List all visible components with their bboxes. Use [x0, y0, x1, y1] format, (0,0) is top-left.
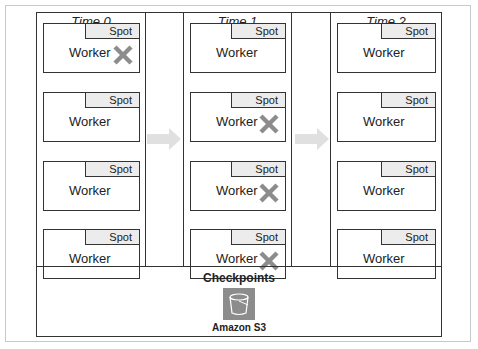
worker-label: Worker — [363, 251, 405, 266]
worker-label: Worker — [69, 183, 111, 198]
worker-card: SpotWorker — [190, 23, 286, 73]
spot-tag: Spot — [381, 92, 436, 108]
spot-tag: Spot — [231, 161, 286, 177]
worker-label: Worker — [216, 183, 258, 198]
arrow-right-icon — [147, 128, 181, 150]
worker-card: SpotWorker — [190, 92, 286, 142]
spot-tag: Spot — [381, 229, 436, 245]
spot-tag: Spot — [85, 229, 140, 245]
worker-label: Worker — [216, 114, 258, 129]
worker-label: Worker — [69, 251, 111, 266]
spot-tag: Spot — [381, 161, 436, 177]
arrow-right-icon — [295, 128, 329, 150]
time-column: Time 1SpotWorkerSpotWorkerSpotWorkerSpot… — [183, 12, 292, 267]
s3-bucket-icon — [223, 288, 255, 320]
spot-tag: Spot — [231, 229, 286, 245]
failed-x-icon — [258, 182, 280, 204]
worker-card: SpotWorker — [337, 161, 436, 211]
checkpoints-section: Checkpoints Amazon S3 — [36, 266, 442, 337]
worker-label: Worker — [69, 114, 111, 129]
worker-label: Worker — [216, 45, 258, 60]
checkpoints-title: Checkpoints — [36, 271, 442, 285]
failed-x-icon — [112, 44, 134, 66]
worker-card: SpotWorker — [43, 23, 140, 73]
worker-label: Worker — [363, 114, 405, 129]
worker-card: SpotWorker — [43, 92, 140, 142]
worker-label: Worker — [216, 251, 258, 266]
time-column: Time 2SpotWorkerSpotWorkerSpotWorkerSpot… — [330, 12, 442, 267]
spot-tag: Spot — [85, 23, 140, 39]
spot-tag: Spot — [381, 23, 436, 39]
time-column: Time 0SpotWorkerSpotWorkerSpotWorkerSpot… — [36, 12, 146, 267]
spot-tag: Spot — [231, 23, 286, 39]
worker-card: SpotWorker — [337, 92, 436, 142]
worker-label: Worker — [363, 45, 405, 60]
s3-label: Amazon S3 — [36, 322, 442, 333]
worker-card: SpotWorker — [43, 161, 140, 211]
failed-x-icon — [258, 113, 280, 135]
spot-tag: Spot — [231, 92, 286, 108]
worker-label: Worker — [69, 45, 111, 60]
spot-tag: Spot — [85, 161, 140, 177]
worker-card: SpotWorker — [190, 161, 286, 211]
worker-card: SpotWorker — [337, 23, 436, 73]
spot-tag: Spot — [85, 92, 140, 108]
worker-label: Worker — [363, 183, 405, 198]
